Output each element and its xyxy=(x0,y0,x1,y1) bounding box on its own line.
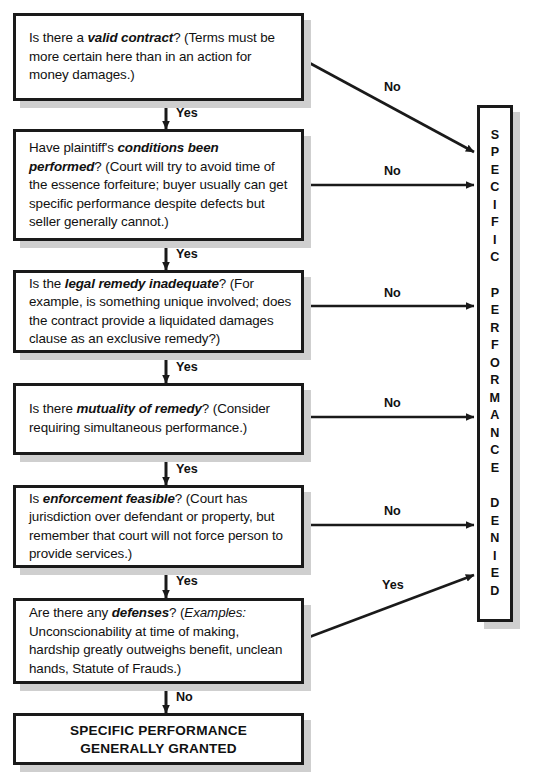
decision-node-legal-remedy-inadequate-text: Is the legal remedy inadequate? (For exa… xyxy=(29,274,293,348)
node-rest-head: ? ( xyxy=(169,605,184,620)
node-lead: Are there any xyxy=(29,605,112,620)
node-lead: Have plaintiff's xyxy=(29,140,117,155)
node-lead: Is there xyxy=(29,401,76,416)
node-emphasis: defenses xyxy=(112,605,169,620)
decision-node-mutuality-of-remedy[interactable]: Is there mutuality of remedy? (Consider … xyxy=(13,383,304,455)
decision-node-enforcement-feasible-text: Is enforcement feasible? (Court has juri… xyxy=(29,489,293,563)
edge-label-yes-5: Yes xyxy=(176,574,198,588)
node-lead: Is there a xyxy=(29,30,87,45)
node-lead: Is the xyxy=(29,275,65,290)
edge-label-yes-2: Yes xyxy=(176,247,198,261)
node-emphasis: valid contract xyxy=(87,30,173,45)
decision-node-defenses[interactable]: Are there any defenses? (Examples: Uncon… xyxy=(13,598,304,684)
decision-node-enforcement-feasible[interactable]: Is enforcement feasible? (Court has juri… xyxy=(13,485,304,568)
edge-label-no-4: No xyxy=(384,396,401,410)
decision-node-defenses-text: Are there any defenses? (Examples: Uncon… xyxy=(29,604,293,678)
decision-node-conditions-performed-text: Have plaintiff's conditions been perform… xyxy=(29,139,293,232)
node-emphasis: legal remedy inadequate xyxy=(65,275,219,290)
node-emphasis: mutuality of remedy xyxy=(76,401,201,416)
edge-label-no-5: No xyxy=(384,504,401,518)
node-lead: Is xyxy=(29,490,43,505)
terminal-line-2: GENERALLY GRANTED xyxy=(80,740,237,755)
decision-node-conditions-performed[interactable]: Have plaintiff's conditions been perform… xyxy=(13,129,304,241)
edge-label-no-1: No xyxy=(384,80,401,94)
terminal-node-granted-text: SPECIFIC PERFORMANCE GENERALLY GRANTED xyxy=(16,722,301,757)
decision-node-legal-remedy-inadequate[interactable]: Is the legal remedy inadequate? (For exa… xyxy=(13,270,304,353)
edge-no-1-line xyxy=(304,60,474,152)
decision-node-valid-contract[interactable]: Is there a valid contract? (Terms must b… xyxy=(13,13,304,101)
edge-label-no-2: No xyxy=(384,164,401,178)
decision-node-valid-contract-text: Is there a valid contract? (Terms must b… xyxy=(29,29,293,85)
edge-label-yes-defenses: Yes xyxy=(382,578,404,592)
edge-label-no-final: No xyxy=(176,690,193,704)
edge-label-yes-1: Yes xyxy=(176,106,198,120)
edge-label-no-3: No xyxy=(384,286,401,300)
edge-label-yes-3: Yes xyxy=(176,360,198,374)
terminal-line-1: SPECIFIC PERFORMANCE xyxy=(70,723,247,738)
edge-label-yes-4: Yes xyxy=(176,462,198,476)
node-rest-italic: Examples: xyxy=(184,605,246,620)
terminal-node-denied[interactable]: S P E C I F I C P E R F O R M A N C E D … xyxy=(477,105,513,622)
node-rest-tail: Unconscionability at time of making, har… xyxy=(29,623,282,675)
node-emphasis: enforcement feasible xyxy=(43,490,175,505)
terminal-node-denied-text: S P E C I F I C P E R F O R M A N C E D … xyxy=(490,127,501,601)
terminal-node-granted[interactable]: SPECIFIC PERFORMANCE GENERALLY GRANTED xyxy=(13,713,304,765)
decision-node-mutuality-of-remedy-text: Is there mutuality of remedy? (Consider … xyxy=(29,400,293,437)
flowchart-canvas: Is there a valid contract? (Terms must b… xyxy=(0,0,534,778)
